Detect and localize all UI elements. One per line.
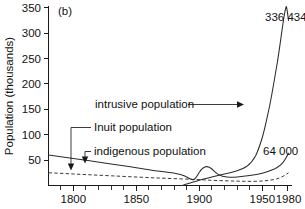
x-axis-major-ticks	[73, 186, 287, 192]
panel-label: (b)	[58, 5, 72, 17]
x-axis-tick-labels: 1800 1850 1900 1950 1980	[61, 193, 302, 205]
chart-canvas: 350 300 250 200 150 100 50 Population (t…	[0, 0, 305, 209]
x-axis-minor-ticks	[61, 186, 275, 190]
y-tick-label: 200	[22, 78, 41, 90]
series-line-intrusive-population	[182, 7, 288, 186]
y-tick-label: 350	[22, 2, 41, 14]
y-tick-label: 300	[22, 27, 41, 39]
y-axis-ticks	[44, 8, 49, 161]
x-tick-label: 1980	[276, 193, 302, 205]
annotation-indigenous-population: indigenous population	[82, 145, 206, 164]
y-axis-tick-labels: 350 300 250 200 150 100 50	[22, 2, 41, 167]
y-tick-label: 50	[28, 154, 41, 166]
annotation-label: intrusive population	[95, 98, 194, 110]
value-label-intrusive: 336 434	[265, 11, 305, 23]
x-tick-label: 1850	[124, 193, 150, 205]
y-tick-label: 250	[22, 53, 41, 65]
annotation-intrusive-population: intrusive population	[95, 98, 244, 110]
arrow-head-icon	[237, 101, 244, 107]
arrow-head-icon	[68, 164, 74, 171]
x-tick-label: 1950	[250, 193, 276, 205]
x-tick-label: 1800	[61, 193, 87, 205]
annotation-label: Inuit population	[94, 121, 172, 133]
y-tick-label: 100	[22, 129, 41, 141]
value-label-indigenous: 64 000	[263, 145, 298, 157]
annotation-label: indigenous population	[94, 145, 206, 157]
y-tick-label: 150	[22, 103, 41, 115]
x-tick-label: 1900	[187, 193, 213, 205]
series-line-inuit-population	[49, 173, 289, 182]
leader-line	[85, 152, 91, 158]
y-axis-title: Population (thousands)	[3, 37, 15, 155]
population-chart-figure: 350 300 250 200 150 100 50 Population (t…	[0, 0, 305, 209]
